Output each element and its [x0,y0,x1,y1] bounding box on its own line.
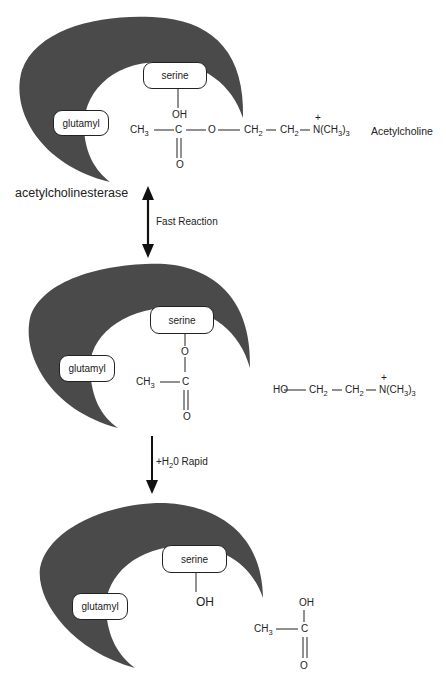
methyl-group: CH3 [130,125,149,135]
trimethylammonium: N(CH3)3 [313,125,350,135]
acetylcholine-label: Acetylcholine [371,126,433,137]
choline-trimethylammonium: N(CH3)3 [379,385,416,395]
carbonyl-carbon: C [175,125,182,135]
methyl-group: CH3 [136,377,155,387]
carboxyl-carbon: C [301,624,308,634]
choline-methylene-2: CH2 [345,385,364,395]
methylene-2: CH2 [280,125,299,135]
serine-hydroxyl: OH [196,596,214,608]
serine-box-1: serine [143,62,207,89]
glutamyl-label: glutamyl [62,118,99,129]
double-arrow-icon [142,186,154,258]
water-rapid-label: +H20 Rapid [156,457,208,467]
enzyme-crescent-3 [40,503,263,668]
carbonyl-oxygen: O [183,412,191,422]
glutamyl-box-1: glutamyl [53,110,109,136]
enzyme-crescent-2 [29,264,250,428]
enzyme-label: acetylcholinesterase [15,187,128,200]
choline-methylene-1: CH2 [309,385,328,395]
fast-reaction-label: Fast Reaction [156,217,218,227]
glutamyl-box-2: glutamyl [59,355,115,382]
glutamyl-box-3: glutamyl [72,593,128,620]
methyl-group: CH3 [254,624,273,634]
serine-box-3: serine [162,545,227,573]
methylene-1: CH2 [244,125,263,135]
serine-label: serine [181,554,208,565]
glutamyl-label: glutamyl [68,363,105,374]
serine-oxygen: O [181,347,189,357]
carbonyl-oxygen: O [300,661,308,671]
hydroxyl-oh: OH [172,110,187,120]
choline-hydroxyl: HO [273,385,288,395]
serine-label: serine [161,70,188,81]
serine-label: serine [168,315,195,326]
glutamyl-label: glutamyl [81,601,118,612]
carbonyl-carbon: C [182,377,189,387]
enzyme-crescent-1 [19,17,243,182]
carbonyl-oxygen: O [176,160,184,170]
positive-charge: + [381,373,387,383]
diagram-canvas [0,0,446,690]
ester-oxygen: O [208,125,216,135]
positive-charge: + [315,113,321,123]
serine-box-2: serine [150,306,214,334]
acid-hydroxyl: OH [299,598,314,608]
